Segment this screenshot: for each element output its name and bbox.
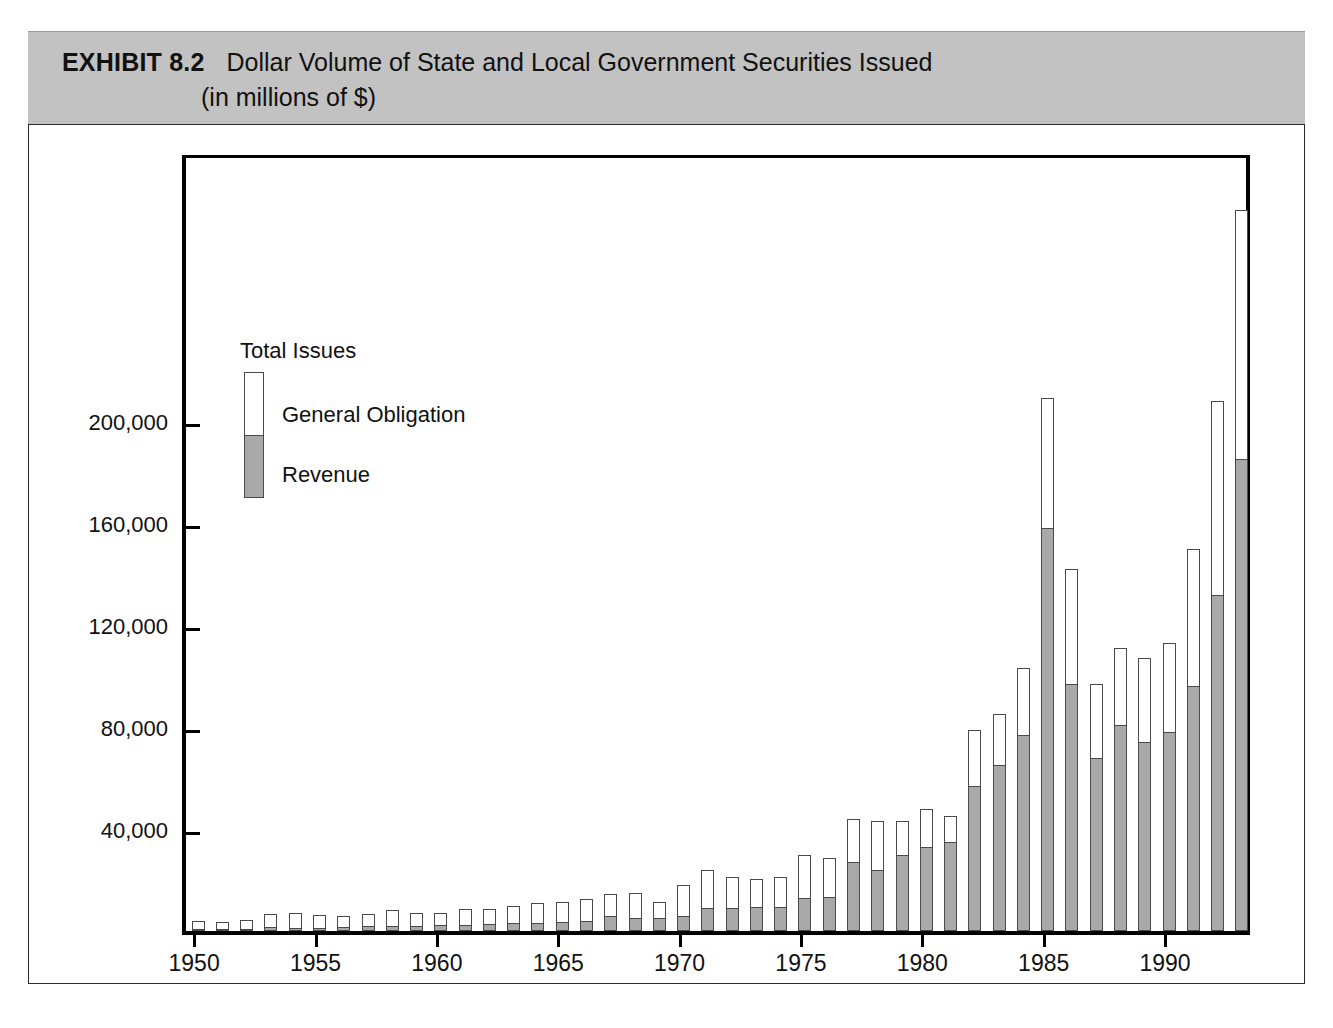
x-axis-tick-label: 1975 xyxy=(775,950,826,977)
bar-segment-revenue xyxy=(944,842,957,931)
legend-label-revenue: Revenue xyxy=(282,462,370,488)
chart-bar xyxy=(604,894,617,931)
x-axis-tick xyxy=(800,935,803,947)
bar-segment-revenue xyxy=(1041,528,1054,931)
chart-bar xyxy=(629,893,642,931)
bar-segment-revenue xyxy=(580,921,593,931)
exhibit-header-text: EXHIBIT 8.2Dollar Volume of State and Lo… xyxy=(62,48,1297,112)
y-axis-tick xyxy=(182,832,200,835)
bar-segment-revenue xyxy=(823,897,836,931)
bar-segment-revenue xyxy=(410,926,423,931)
y-axis-labels: 40,00080,000120,000160,000200,000 xyxy=(0,0,168,1028)
bar-segment-revenue xyxy=(847,862,860,931)
bar-segment-revenue xyxy=(920,847,933,931)
chart-bar xyxy=(677,885,690,931)
legend-swatch-revenue xyxy=(245,435,263,497)
chart-bar xyxy=(1041,398,1054,931)
chart-bar xyxy=(726,877,739,931)
chart-bar xyxy=(531,903,544,931)
bar-segment-revenue xyxy=(1138,742,1151,931)
bar-segment-revenue xyxy=(337,927,350,931)
x-axis-tick-label: 1970 xyxy=(654,950,705,977)
bar-segment-revenue xyxy=(556,922,569,931)
chart-bar xyxy=(386,910,399,931)
chart-bar xyxy=(653,902,666,931)
bar-segment-revenue xyxy=(629,918,642,931)
chart-bar xyxy=(240,920,253,931)
bar-segment-revenue xyxy=(1163,732,1176,931)
chart-bar xyxy=(459,909,472,931)
x-axis-tick xyxy=(679,935,682,947)
bar-segment-revenue xyxy=(871,870,884,931)
chart-bar xyxy=(1114,648,1127,931)
x-axis-tick xyxy=(921,935,924,947)
bar-segment-revenue xyxy=(240,929,253,931)
y-axis-tick-label: 200,000 xyxy=(88,410,168,436)
chart-bar xyxy=(847,819,860,931)
exhibit-header-first-line: EXHIBIT 8.2Dollar Volume of State and Lo… xyxy=(62,48,1297,77)
bar-segment-revenue xyxy=(459,925,472,931)
chart-bar xyxy=(289,913,302,931)
exhibit-subtitle: (in millions of $) xyxy=(201,83,1297,112)
chart-bar xyxy=(192,921,205,931)
chart-bar xyxy=(968,730,981,931)
chart-bar xyxy=(993,714,1006,931)
chart-bar xyxy=(556,902,569,931)
bar-segment-revenue xyxy=(1187,686,1200,931)
chart-plot-area xyxy=(182,155,1250,935)
x-axis-tick-label: 1950 xyxy=(169,950,220,977)
y-axis-tick-label: 160,000 xyxy=(88,512,168,538)
bar-segment-revenue xyxy=(798,898,811,931)
chart-bar xyxy=(798,855,811,931)
bar-segment-revenue xyxy=(1211,595,1224,931)
bar-segment-revenue xyxy=(750,907,763,931)
chart-bar xyxy=(896,821,909,931)
chart-legend: Total Issues General Obligation Revenue xyxy=(240,338,540,370)
chart-bar xyxy=(434,913,447,931)
chart-bar xyxy=(774,877,787,931)
x-axis-tick-label: 1990 xyxy=(1139,950,1190,977)
chart-bar xyxy=(1235,210,1248,931)
bar-segment-revenue xyxy=(483,924,496,931)
bar-segment-revenue xyxy=(216,929,229,931)
chart-bar xyxy=(337,916,350,931)
y-axis-tick-label: 40,000 xyxy=(101,818,168,844)
x-axis-tick-label: 1985 xyxy=(1018,950,1069,977)
x-axis-tick xyxy=(315,935,318,947)
chart-bar xyxy=(750,879,763,931)
chart-bar xyxy=(920,809,933,931)
bar-segment-revenue xyxy=(896,855,909,931)
bar-segment-revenue xyxy=(701,908,714,931)
bar-segment-revenue xyxy=(434,925,447,931)
x-axis-tick xyxy=(436,935,439,947)
chart-bar xyxy=(1065,569,1078,931)
y-axis-tick xyxy=(182,526,200,529)
x-axis-tick-label: 1965 xyxy=(533,950,584,977)
chart-bar xyxy=(823,858,836,931)
x-axis-tick xyxy=(1164,935,1167,947)
chart-bar xyxy=(216,922,229,931)
x-axis-tick xyxy=(1043,935,1046,947)
x-axis-tick-label: 1960 xyxy=(411,950,462,977)
chart-bar xyxy=(483,909,496,931)
y-axis-tick xyxy=(182,628,200,631)
bar-segment-revenue xyxy=(264,927,277,931)
chart-bar xyxy=(580,899,593,931)
chart-bar xyxy=(264,914,277,931)
chart-bar xyxy=(1211,401,1224,931)
bar-segment-revenue xyxy=(386,926,399,931)
bars-container xyxy=(186,158,1246,931)
exhibit-title: Dollar Volume of State and Local Governm… xyxy=(227,48,933,77)
chart-bar xyxy=(1017,668,1030,931)
chart-bar xyxy=(313,915,326,931)
y-axis-tick-label: 120,000 xyxy=(88,614,168,640)
y-axis-tick-label: 80,000 xyxy=(101,716,168,742)
bar-segment-revenue xyxy=(313,928,326,931)
x-axis-tick-label: 1955 xyxy=(290,950,341,977)
chart-bar xyxy=(871,821,884,931)
bar-segment-revenue xyxy=(1090,758,1103,931)
chart-bar xyxy=(944,816,957,931)
bar-segment-revenue xyxy=(677,916,690,931)
x-axis-tick xyxy=(557,935,560,947)
bar-segment-revenue xyxy=(1017,735,1030,931)
